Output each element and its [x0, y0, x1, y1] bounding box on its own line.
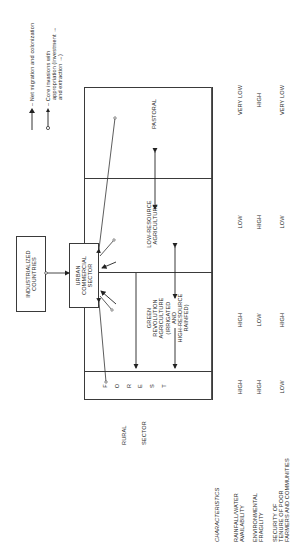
characteristics-header: CHARACTERISTICS: [214, 488, 220, 542]
tenure-green-value: HIGH: [279, 305, 285, 335]
rotated-figure: – Net migration and colonization – Core …: [0, 0, 308, 554]
lowres-line-2: AGRICULTURE: [152, 184, 158, 264]
forest-letter-f: F: [100, 374, 112, 398]
rural-sector-label: RURAL SECTOR: [121, 421, 147, 445]
rainfall-forest-value: HIGH: [237, 372, 243, 402]
sector-label: SECTOR: [141, 421, 147, 445]
rainfall-label-2: AVAILABILITY: [239, 493, 245, 542]
tenure-forest-value: LOW: [279, 372, 285, 402]
characteristic-row-fragility-label: ENVIRONMENTAL FRAGILITY: [252, 493, 264, 542]
rainfall-lowres-value: LOW: [237, 207, 243, 237]
forest-letter-t: T: [159, 374, 171, 398]
rural-label: RURAL: [121, 421, 127, 445]
rainfall-green-value: HIGH: [237, 305, 243, 335]
tenure-pastoral-value: VERY LOW: [279, 82, 285, 118]
pastoral-label: PASTORAL: [151, 92, 157, 136]
flow-arrows: [0, 0, 308, 554]
forest-letter-o: O: [112, 374, 124, 398]
pastoral-line-1: PASTORAL: [151, 92, 157, 136]
characteristic-row-rainfall-label: RAINFALL/WATER AVAILABILITY: [233, 493, 245, 542]
fragility-forest-value: HIGH: [256, 372, 262, 402]
fragility-green-value: LOW: [256, 305, 262, 335]
forest-label: F O R E S T: [100, 374, 171, 398]
fragility-lowres-value: HIGH: [256, 207, 262, 237]
characteristic-row-tenure-label: SECURITY OF TENURE OF POOR FARMERS AND C…: [272, 458, 291, 542]
rainfall-pastoral-value: VERY LOW: [237, 82, 243, 118]
forest-letter-e: E: [135, 374, 147, 398]
forest-letter-s: S: [147, 374, 159, 398]
green-revolution-label: GREEN REVOLUTION AGRICULTURE (IRRIGATED …: [146, 278, 189, 358]
fragility-pastoral-value: HIGH: [256, 85, 262, 115]
forest-letter-r: R: [124, 374, 136, 398]
tenure-label-3: FARMERS AND COMMUNITIES: [284, 458, 290, 542]
low-resource-label: LOW-RESOURCE AGRICULTURE: [146, 184, 158, 264]
tenure-lowres-value: LOW: [279, 207, 285, 237]
green-line-7: RAINFED): [183, 278, 189, 358]
fragility-label-2: FRAGILITY: [258, 493, 264, 542]
